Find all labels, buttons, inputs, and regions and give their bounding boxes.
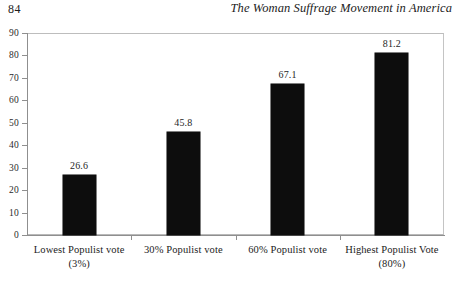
- y-axis-tick: [22, 190, 27, 191]
- y-axis-tick: [22, 33, 27, 34]
- y-axis-tick-label-wrap: 20: [0, 190, 19, 191]
- y-axis-tick-label-wrap: 10: [0, 213, 19, 214]
- y-axis-tick-label: 50: [9, 118, 19, 128]
- y-axis-tick: [22, 168, 27, 169]
- bar-value-label: 81.2: [383, 38, 401, 49]
- bar: [167, 132, 200, 235]
- y-axis-tick: [22, 123, 27, 124]
- y-axis-tick: [22, 213, 27, 214]
- y-axis-tick-label: 0: [14, 230, 19, 240]
- y-axis-tick: [22, 235, 27, 236]
- y-axis-tick-label: 10: [9, 208, 19, 218]
- y-axis-tick-label: 60: [9, 95, 19, 105]
- y-axis-tick: [22, 55, 27, 56]
- x-axis-category-label: Lowest Populist vote(3%): [34, 243, 125, 270]
- y-axis-tick-label: 30: [9, 163, 19, 173]
- running-head-title: The Woman Suffrage Movement in America: [231, 1, 452, 16]
- y-axis-tick-label-wrap: 30: [0, 168, 19, 169]
- page-header: 84 The Woman Suffrage Movement in Americ…: [0, 0, 460, 22]
- bar-value-label: 67.1: [278, 69, 296, 80]
- y-axis-tick: [22, 78, 27, 79]
- y-axis-tick: [22, 100, 27, 101]
- y-axis-tick-label: 40: [9, 140, 19, 150]
- x-axis-tick: [131, 235, 132, 240]
- category-label-sublabel: (3%): [34, 257, 125, 271]
- category-label-sublabel: (80%): [345, 257, 438, 271]
- x-axis-tick: [340, 235, 341, 240]
- y-axis-tick-label: 80: [9, 50, 19, 60]
- bar: [375, 53, 408, 235]
- y-axis-line: [27, 33, 28, 236]
- page-number: 84: [8, 2, 21, 17]
- bar-value-label: 45.8: [174, 117, 192, 128]
- y-axis-tick-label-wrap: 40: [0, 145, 19, 146]
- y-axis-tick-label-wrap: 70: [0, 78, 19, 79]
- y-axis-tick-label: 90: [9, 28, 19, 38]
- y-axis-tick-label-wrap: 60: [0, 100, 19, 101]
- x-axis-tick: [236, 235, 237, 240]
- y-axis-tick-label-wrap: 50: [0, 123, 19, 124]
- category-label-text: Lowest Populist vote: [34, 244, 125, 255]
- x-axis-category-label: 30% Populist vote: [144, 243, 223, 257]
- category-label-text: 60% Populist vote: [248, 244, 327, 255]
- bar-chart-figure: 0102030405060708090 26.645.867.181.2 Low…: [0, 22, 460, 282]
- y-axis-tick-label-wrap: 80: [0, 55, 19, 56]
- y-axis-tick-label: 20: [9, 185, 19, 195]
- y-axis-tick-label: 70: [9, 73, 19, 83]
- category-label-text: Highest Populist Vote: [345, 244, 438, 255]
- bar: [271, 84, 304, 235]
- category-label-text: 30% Populist vote: [144, 244, 223, 255]
- x-axis-category-label: 60% Populist vote: [248, 243, 327, 257]
- y-axis-tick: [22, 145, 27, 146]
- y-axis-tick-label-wrap: 0: [0, 235, 19, 236]
- bar: [63, 175, 96, 235]
- y-axis-tick-label-wrap: 90: [0, 33, 19, 34]
- bar-value-label: 26.6: [70, 160, 88, 171]
- x-axis-category-label: Highest Populist Vote(80%): [345, 243, 438, 270]
